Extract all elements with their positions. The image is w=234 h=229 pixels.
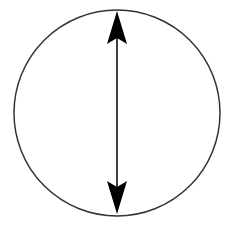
diagram-canvas bbox=[0, 0, 234, 229]
